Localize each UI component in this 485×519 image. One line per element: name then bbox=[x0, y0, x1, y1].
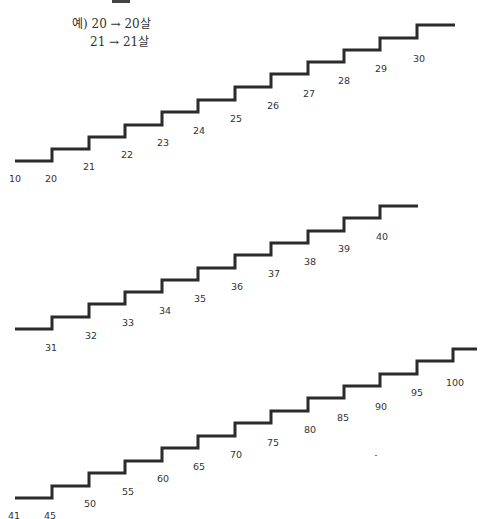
staircase-1-step-label: 24 bbox=[193, 125, 205, 136]
staircase-3-step-label: 50 bbox=[84, 498, 96, 509]
staircase-2-step-label: 33 bbox=[122, 317, 134, 328]
staircase-3-step-label: 75 bbox=[267, 437, 279, 448]
staircase-1-step-label: 25 bbox=[230, 113, 242, 124]
staircase-2-step-label: 40 bbox=[376, 231, 388, 242]
staircase-2-step-label: 37 bbox=[268, 268, 280, 279]
staircase-2-step-label: 32 bbox=[85, 330, 97, 341]
staircase-2-line bbox=[15, 206, 418, 329]
staircase-3-step-label: 95 bbox=[411, 387, 423, 398]
staircase-3-step-label: 65 bbox=[193, 461, 205, 472]
staircase-3-step-label: 60 bbox=[157, 473, 169, 484]
staircase-1-step-label: 28 bbox=[338, 75, 350, 86]
staircase-2-step-label: 31 bbox=[45, 342, 57, 353]
staircase-3-step-label: 80 bbox=[304, 424, 316, 435]
staircase-1-line bbox=[15, 25, 455, 161]
staircase-2-step-label: 38 bbox=[304, 256, 316, 267]
staircase-1-step-label: 20 bbox=[45, 173, 57, 184]
staircase-1-step-label: 27 bbox=[303, 88, 315, 99]
staircase-3-step-label: 100 bbox=[446, 377, 464, 388]
staircase-1-step-label: 29 bbox=[375, 63, 387, 74]
staircase-2-step-label: 36 bbox=[231, 281, 243, 292]
staircase-3-step-label: 85 bbox=[337, 412, 349, 423]
staircase-3-step-label: 41 bbox=[8, 510, 20, 519]
staircase-3-line bbox=[15, 349, 477, 498]
stray-dot bbox=[375, 455, 377, 456]
staircase-3-step-label: 45 bbox=[44, 510, 56, 519]
staircase-3-step-label: 55 bbox=[122, 486, 134, 497]
staircase-1-step-label: 26 bbox=[267, 100, 279, 111]
staircase-1-step-label: 10 bbox=[9, 173, 21, 184]
staircase-3-step-label: 90 bbox=[375, 401, 387, 412]
staircase-2-step-label: 39 bbox=[338, 243, 350, 254]
staircase-1-step-label: 21 bbox=[83, 161, 95, 172]
staircase-1-step-label: 22 bbox=[121, 149, 133, 160]
staircase-1-step-label: 30 bbox=[413, 53, 425, 64]
staircases-diagram bbox=[0, 0, 485, 519]
staircase-1-step-label: 23 bbox=[157, 137, 169, 148]
staircase-2-step-label: 34 bbox=[159, 305, 171, 316]
staircase-2-step-label: 35 bbox=[194, 293, 206, 304]
staircase-3-step-label: 70 bbox=[230, 449, 242, 460]
